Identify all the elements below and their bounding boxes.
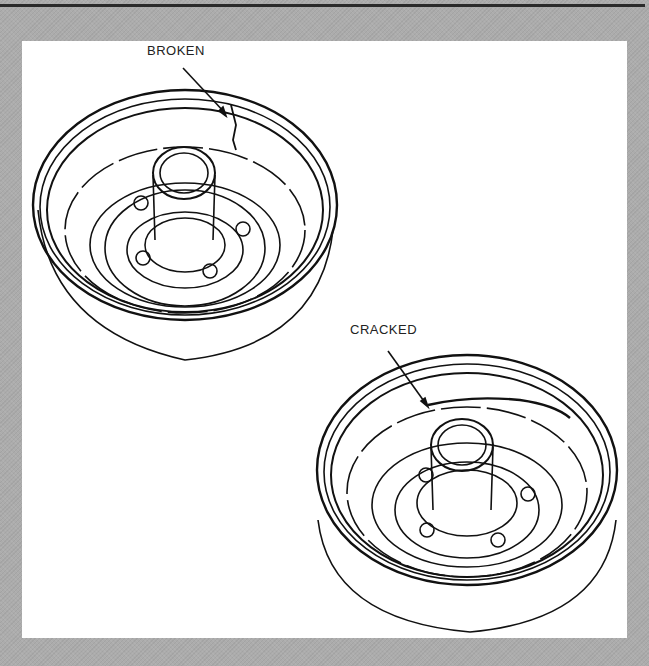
brake-drum-broken <box>33 68 337 360</box>
drum-illustration <box>0 0 649 666</box>
figure-frame: BROKEN CRACKED <box>0 0 649 666</box>
brake-drum-cracked <box>317 351 617 632</box>
